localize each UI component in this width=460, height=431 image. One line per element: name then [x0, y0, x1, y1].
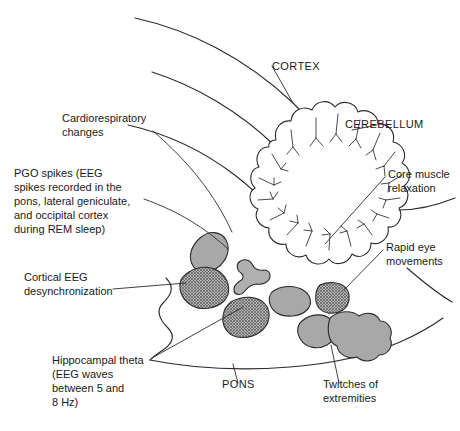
- label-cortical-eeg: Cortical EEG desynchronization: [24, 271, 113, 297]
- nucleus-right-small-hatched: [316, 283, 349, 314]
- label-rapid-eye-line-1: Rapid eye: [386, 241, 436, 253]
- label-pgo-spikes: PGO spikes (EEG spikes recorded in the p…: [14, 167, 130, 235]
- nucleus-lower-left-hatched: [223, 297, 269, 337]
- label-pons: PONS: [222, 378, 255, 390]
- brainstem-inferior-border: [150, 318, 443, 369]
- label-pgo-spikes-line-2: spikes recorded in the: [14, 181, 122, 193]
- leader-cortical-eeg: [113, 283, 186, 289]
- leader-cardiorespiratory: [153, 131, 232, 232]
- label-rapid-eye: Rapid eye movements: [386, 241, 443, 267]
- label-hippocampal-theta: Hippocampal theta (EEG waves between 5 a…: [52, 354, 145, 408]
- label-twitches: Twitches of extremities: [323, 378, 379, 404]
- label-cortical-eeg-line-2: desynchronization: [24, 285, 113, 297]
- label-pgo-spikes-line-3: pons, lateral geniculate,: [14, 195, 130, 207]
- label-twitches-line-1: Twitches of: [323, 378, 379, 390]
- label-cerebellum: CEREBELLUM: [345, 118, 424, 130]
- label-core-muscle-line-2: relaxation: [388, 182, 436, 194]
- label-cortical-eeg-line-1: Cortical EEG: [24, 271, 88, 283]
- cortex-arc-inner: [128, 125, 268, 205]
- label-cardiorespiratory-line-2: changes: [62, 126, 104, 138]
- brain-diagram-figure: CORTEX CEREBELLUM PONS Cardiorespiratory…: [0, 0, 460, 431]
- label-hippocampal-theta-line-2: (EEG waves: [52, 368, 114, 380]
- nucleus-center-rounded: [269, 286, 310, 316]
- label-cardiorespiratory-line-1: Cardiorespiratory: [62, 112, 147, 124]
- nucleus-upper-left-oval: [190, 233, 228, 273]
- diagram-canvas: CORTEX CEREBELLUM PONS Cardiorespiratory…: [0, 0, 460, 431]
- nucleus-left-large-hatched: [180, 267, 229, 308]
- label-pgo-spikes-line-4: and occipital cortex: [14, 209, 109, 221]
- label-hippocampal-theta-line-4: 8 Hz): [52, 396, 78, 408]
- label-core-muscle-line-1: Core muscle: [388, 168, 450, 180]
- label-cortex: CORTEX: [272, 60, 320, 72]
- nucleus-lower-right-large-lobe: [328, 312, 391, 361]
- label-cardiorespiratory: Cardiorespiratory changes: [62, 112, 147, 138]
- label-pgo-spikes-line-1: PGO spikes (EEG: [14, 167, 103, 179]
- nucleus-midline-bowtie: [234, 260, 270, 295]
- label-rapid-eye-line-2: movements: [386, 255, 443, 267]
- label-hippocampal-theta-line-3: between 5 and: [52, 382, 124, 394]
- label-hippocampal-theta-line-1: Hippocampal theta: [52, 354, 145, 366]
- label-pgo-spikes-line-5: during REM sleep): [14, 223, 105, 235]
- label-twitches-line-2: extremities: [323, 392, 377, 404]
- brainstem-anterior-wavy-edge: [150, 278, 172, 360]
- medulla-posterior-edge: [407, 268, 452, 302]
